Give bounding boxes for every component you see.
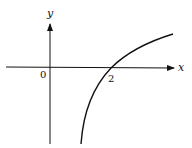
x-tick-label-2: 2 (108, 73, 114, 84)
graph-canvas: y x 0 2 (0, 0, 192, 148)
x-axis-label: x (178, 61, 185, 74)
graph-figure: y x 0 2 (0, 0, 192, 148)
y-axis-label: y (46, 7, 54, 20)
origin-label: 0 (40, 69, 46, 80)
function-curve (81, 34, 173, 144)
x-axis (6, 67, 174, 68)
